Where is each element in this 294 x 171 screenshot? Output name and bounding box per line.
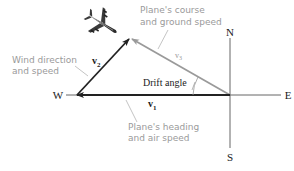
drift-angle-label: Drift angle — [143, 77, 187, 88]
vector-diagram: N S E W v1 v2 v3 Drift angle Plane's cou… — [0, 0, 294, 171]
course-callout-leader — [158, 30, 168, 49]
south-label: S — [227, 151, 233, 163]
course-callout-line2: and ground speed — [140, 17, 222, 27]
west-label: W — [53, 89, 64, 101]
wind-callout-leader — [75, 66, 88, 76]
wind-callout-line1: Wind direction — [12, 55, 77, 65]
v3-label: v3 — [175, 51, 182, 61]
airplane-icon — [79, 2, 124, 44]
course-callout-line1: Plane's course — [140, 5, 205, 15]
vector-v2 — [77, 39, 129, 95]
wind-callout-line2: and speed — [12, 66, 59, 76]
heading-callout-line1: Plane's heading — [128, 122, 199, 132]
north-label: N — [226, 26, 234, 38]
heading-callout-line2: and air speed — [128, 133, 190, 143]
v2-label: v2 — [92, 55, 101, 69]
heading-callout-leader — [126, 100, 137, 122]
east-label: E — [285, 89, 292, 101]
v1-label: v1 — [148, 98, 157, 112]
